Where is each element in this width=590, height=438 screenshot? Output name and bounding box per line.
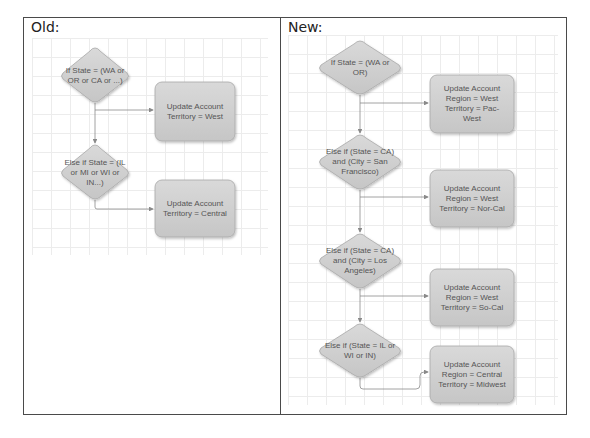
old-decision-2: Else if State = (IL or MI or WI or IN...… (62, 155, 128, 191)
new-decision-4: Else if (State = IL or WI or IN) (322, 337, 398, 365)
old-decision-1: If State = (WA or OR or CA or ...) (60, 60, 130, 92)
new-action-3: Update Account Region = West Territory =… (434, 269, 510, 326)
old-action-2: Update Account Territory = Central (160, 180, 230, 237)
old-action-1: Update Account Territory = West (160, 82, 230, 141)
new-decision-1: If State = (WA or OR) (328, 54, 392, 82)
new-action-1: Update Account Region = West Territory =… (436, 75, 508, 133)
new-action-2: Update Account Region = West Territory =… (434, 170, 510, 227)
new-action-4: Update Account Region = Central Territor… (432, 346, 512, 403)
new-decision-2: Else if (State = CA) and (City = San Fra… (321, 144, 399, 180)
new-decision-3: Else if (State = CA) and (City = Los Ang… (321, 243, 399, 279)
